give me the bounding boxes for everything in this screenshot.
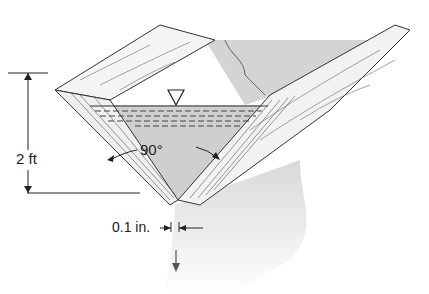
height-label: 2 ft [16,150,37,167]
gap-label: 0.1 in. [112,219,150,235]
water-surface-triangle-icon [168,90,184,105]
left-plank [55,25,215,100]
angle-label: 90° [140,141,163,158]
weir-diagram [0,0,429,294]
